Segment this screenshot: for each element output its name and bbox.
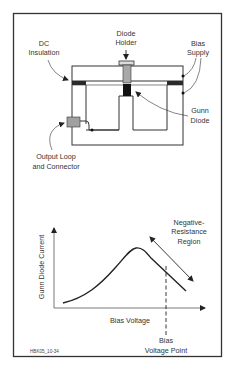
output-connector [67,117,80,127]
label-output-loop-2: and Connector [32,162,80,171]
iv-chart: Gunn Diode Current Bias Voltage Negative… [30,218,207,355]
label-dc-insulation-1: DC [39,39,49,48]
dc-insulation-left [72,81,86,85]
diode-holder-cap [119,61,134,65]
label-output-loop-1: Output Loop [36,152,76,161]
label-gunn-diode-2: Diode [191,116,210,125]
label-diode-holder-2: Holder [115,38,137,47]
bias-point-label-2: Voltage Point [145,346,187,355]
gunn-diode [123,84,131,96]
label-gunn-diode-1: Gunn [191,106,209,115]
figure-frame [14,14,222,357]
region-label-3: Region [178,237,201,246]
y-axis-label: Gunn Diode Current [37,235,46,299]
dc-insulation-right [167,81,183,85]
iv-curve [63,248,186,303]
figure-id: HBK05_10-34 [30,349,59,354]
label-bias-supply-1: Bias [191,39,205,48]
label-diode-holder-1: Diode [117,29,136,38]
region-label-1: Negative- [174,218,205,227]
label-dc-insulation-2: Insulation [29,48,60,57]
label-bias-supply-2: Supply [187,48,209,57]
gunn-diode-figure: Diode Holder DC Insulation Bias Supply G… [0,0,233,370]
x-axis-label: Bias Voltage [110,316,150,325]
diode-holder [123,65,131,83]
region-label-2: Resistance [171,227,207,236]
cavity-diagram: Diode Holder DC Insulation Bias Supply G… [29,29,210,171]
bias-point-label-1: Bias [159,336,173,345]
